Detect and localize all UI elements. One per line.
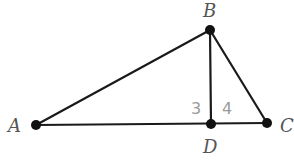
point-c	[262, 118, 272, 128]
label-a: A	[6, 115, 21, 136]
angle-label-4: 4	[222, 99, 232, 118]
point-b	[205, 25, 215, 35]
point-d	[206, 119, 216, 129]
segment-ab	[36, 30, 210, 125]
label-d: D	[202, 136, 218, 157]
segment-bd	[210, 30, 211, 124]
label-b: B	[202, 0, 216, 21]
point-a	[31, 120, 41, 130]
triangle-diagram: A B C D 3 4	[0, 0, 294, 160]
label-c: C	[280, 115, 294, 136]
segment-bc	[210, 30, 267, 123]
angle-label-3: 3	[191, 99, 201, 118]
segment-ac	[36, 123, 267, 125]
